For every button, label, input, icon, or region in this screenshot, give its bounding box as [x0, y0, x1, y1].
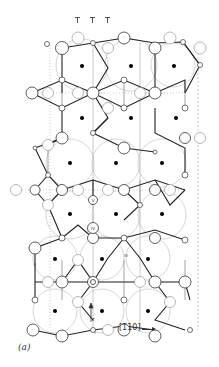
panel-label: (a)	[18, 343, 30, 352]
crystal-structure-figure: V IV III II I z (a) [1̄10]	[0, 0, 219, 367]
direction-arrow-icon	[142, 329, 154, 330]
legend-tick-2	[90, 17, 95, 24]
site-label-texts: V IV III II I	[34, 198, 128, 336]
site-label-i: I	[94, 330, 95, 335]
site-label-iv: IV	[91, 226, 95, 231]
site-label-v: V	[92, 198, 95, 203]
legend-tick-1	[75, 17, 80, 24]
structure-diagram: V IV III II I	[0, 0, 219, 367]
site-label-iii: III	[124, 253, 128, 258]
direction-label: [1̄10]	[119, 324, 141, 332]
site-label-ii: II	[34, 262, 36, 267]
z-axis-label: z	[92, 317, 95, 322]
legend-tick-3	[105, 17, 110, 24]
